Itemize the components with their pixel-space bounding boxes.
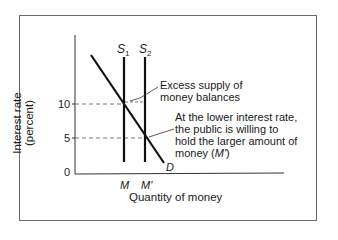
x-tick-label-m-prime: M' <box>141 179 152 191</box>
demand-curve-d <box>91 55 164 163</box>
s2-label: S2 <box>139 43 151 60</box>
x-axis <box>75 173 284 174</box>
x-tick-label-m: M <box>120 179 129 191</box>
y-tick-label-10: 10 <box>58 98 70 110</box>
y-tick-label-0: 0 <box>64 166 70 178</box>
lower-rate-note: At the lower interest rate, the public i… <box>175 111 297 159</box>
x-axis-label: Quantity of money <box>129 191 222 203</box>
excess-supply-note: Excess supply of money balances <box>160 79 243 103</box>
y-axis-label: Interest rate (percent) <box>11 68 35 178</box>
y-tick-label-5: 5 <box>64 132 70 144</box>
note2-leader <box>149 129 174 137</box>
d-label: D <box>166 161 174 173</box>
s1-label: S1 <box>117 43 129 60</box>
